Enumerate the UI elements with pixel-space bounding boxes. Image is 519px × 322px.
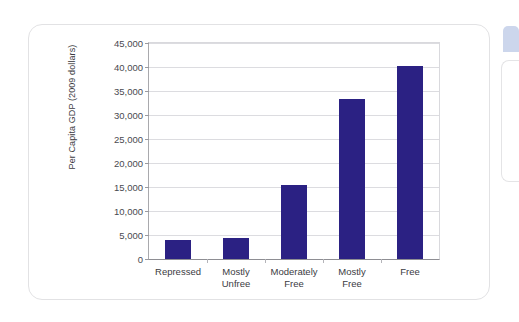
x-axis-tick-label: MostlyFree xyxy=(338,266,365,289)
y-axis-tick-label: 30,000 xyxy=(114,110,143,121)
y-axis-tick-label: 25,000 xyxy=(114,134,143,145)
bar xyxy=(397,66,423,259)
y-axis-tick-label: 5,000 xyxy=(119,230,143,241)
x-axis-tick-mark xyxy=(265,259,266,263)
bar xyxy=(339,99,365,259)
bar-group: MostlyFree xyxy=(323,43,381,259)
bar xyxy=(223,238,249,259)
bar-chart: Per Capita GDP (2009 dollars) 05,00010,0… xyxy=(28,24,490,300)
y-axis-tick-label: 20,000 xyxy=(114,158,143,169)
bar-group: Repressed xyxy=(149,43,207,259)
plot-area: 05,00010,00015,00020,00025,00030,00035,0… xyxy=(148,42,440,260)
x-axis-tick-label: ModeratelyFree xyxy=(271,266,318,289)
x-axis-tick-mark xyxy=(207,259,208,263)
x-axis-tick-mark xyxy=(323,259,324,263)
x-axis-tick-label: Free xyxy=(400,266,420,278)
y-axis-title: Per Capita GDP (2009 dollars) xyxy=(67,27,77,187)
side-panel-card xyxy=(501,60,519,182)
x-axis-tick-label: MostlyUnfree xyxy=(222,266,251,289)
bar-group: Free xyxy=(381,43,439,259)
y-axis-tick-label: 0 xyxy=(138,254,143,265)
x-axis-tick-label: Repressed xyxy=(155,266,201,278)
bar xyxy=(165,240,191,259)
y-axis-tick-label: 45,000 xyxy=(114,38,143,49)
bar xyxy=(281,185,307,259)
bar-group: MostlyUnfree xyxy=(207,43,265,259)
x-axis-tick-mark xyxy=(381,259,382,263)
y-axis-tick-label: 15,000 xyxy=(114,182,143,193)
bar-group: ModeratelyFree xyxy=(265,43,323,259)
side-tab-decoration xyxy=(503,26,519,52)
y-axis-tick-label: 40,000 xyxy=(114,62,143,73)
y-axis-tick-mark xyxy=(145,259,149,260)
y-axis-tick-label: 10,000 xyxy=(114,206,143,217)
y-axis-tick-label: 35,000 xyxy=(114,86,143,97)
